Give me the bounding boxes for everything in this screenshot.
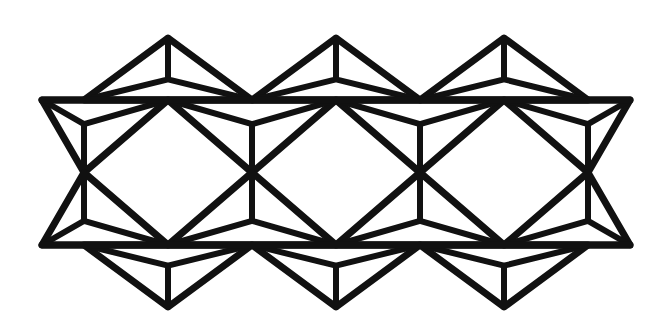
- lattice-diagram: [0, 0, 669, 333]
- figure-root: [0, 0, 669, 333]
